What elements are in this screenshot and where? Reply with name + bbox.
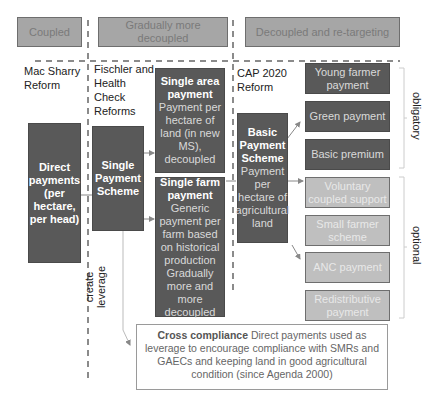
- direct-payments-box: Direct payments (per hectare, per head): [28, 123, 81, 263]
- single-area-payment-box: Single area payment Payment per hectare …: [155, 68, 225, 173]
- anc-payment-box: ANC payment: [305, 252, 390, 283]
- sfp-body: Generic payment per farm based on histor…: [156, 202, 224, 319]
- green-payment-label: Green payment: [310, 110, 386, 123]
- basic-premium-label: Basic premium: [311, 148, 384, 161]
- bps-body: Payment per hectare of agricultural land: [236, 165, 290, 230]
- small-farmer-scheme-box: Small farmer scheme: [305, 215, 390, 246]
- cross-compliance-box: Cross compliance Direct payments used as…: [136, 324, 388, 390]
- sap-title: Single area payment: [156, 75, 224, 101]
- basic-premium-box: Basic premium: [305, 139, 390, 170]
- basic-payment-scheme-box: Basic Payment Scheme Payment per hectare…: [237, 113, 288, 243]
- anc-payment-label: ANC payment: [313, 261, 381, 274]
- redistributive-payment-box: Redistributive payment: [305, 290, 390, 321]
- voluntary-coupled-label: Voluntary coupled support: [306, 180, 389, 206]
- create-leverage-label: create leverage: [83, 257, 133, 317]
- header-retargeting: Decoupled and re-targeting: [245, 17, 400, 47]
- reform-fischler: Fischler and Health Check Reforms: [94, 62, 154, 118]
- optional-label: optional: [411, 226, 423, 265]
- header-gradual-label: Gradually more decoupled: [119, 19, 207, 45]
- redistributive-label: Redistributive payment: [306, 293, 389, 319]
- direct-payments-label: Direct payments (per hectare, per head): [29, 161, 80, 226]
- single-payment-scheme-box: Single Payment Scheme: [92, 126, 144, 231]
- obligatory-label: obligatory: [411, 92, 423, 140]
- sap-body: Payment per hectare of land (in new MS),…: [156, 101, 224, 166]
- small-farmer-label: Small farmer scheme: [306, 218, 389, 244]
- cross-compliance-title: Cross compliance: [158, 329, 248, 341]
- bps-title: Basic Payment Scheme: [238, 126, 287, 165]
- header-coupled: Coupled: [17, 17, 82, 47]
- single-farm-payment-box: Single farm payment Generic payment per …: [155, 177, 225, 317]
- reform-cap2020: CAP 2020 Reform: [237, 66, 289, 94]
- header-gradually-decoupled: Gradually more decoupled: [98, 17, 228, 47]
- sfp-title: Single farm payment: [156, 176, 224, 202]
- young-farmer-payment-box: Young farmer payment: [305, 63, 390, 94]
- sps-label: Single Payment Scheme: [93, 159, 143, 198]
- header-coupled-label: Coupled: [29, 26, 70, 39]
- reform-mac-sharry: Mac Sharry Reform: [24, 64, 86, 92]
- young-farmer-label: Young farmer payment: [306, 66, 389, 92]
- green-payment-box: Green payment: [305, 101, 390, 132]
- header-retarget-label: Decoupled and re-targeting: [256, 26, 389, 39]
- voluntary-coupled-support-box: Voluntary coupled support: [305, 177, 390, 208]
